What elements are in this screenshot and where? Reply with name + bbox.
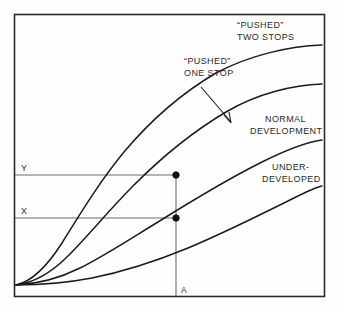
label-under-developed-line1: UNDER- — [272, 162, 309, 172]
marker-point-x — [173, 215, 179, 221]
label-under-developed-line2: DEVELOPED — [262, 174, 321, 184]
leader-line-pushed-one-stop — [201, 87, 231, 122]
film-characteristic-curve-figure: “PUSHED” TWO STOPS “PUSHED” ONE STOP NOR… — [0, 0, 339, 313]
curve-under-developed — [16, 186, 322, 285]
label-pushed-one-stop-line1: “PUSHED” — [184, 56, 231, 66]
axis-label-y: Y — [21, 163, 27, 173]
label-pushed-one-stop-line2: ONE STOP — [184, 68, 234, 78]
axis-label-x: X — [21, 206, 27, 216]
label-normal-development-line1: NORMAL — [265, 114, 306, 124]
axis-label-a: A — [181, 285, 187, 295]
chart-canvas: “PUSHED” TWO STOPS “PUSHED” ONE STOP NOR… — [0, 0, 339, 313]
label-pushed-two-stops-line2: TWO STOPS — [237, 32, 294, 42]
marker-point-y — [173, 172, 179, 178]
chart-frame — [15, 15, 325, 297]
label-normal-development-line2: DEVELOPMENT — [250, 126, 323, 136]
label-pushed-two-stops-line1: “PUSHED” — [237, 20, 284, 30]
